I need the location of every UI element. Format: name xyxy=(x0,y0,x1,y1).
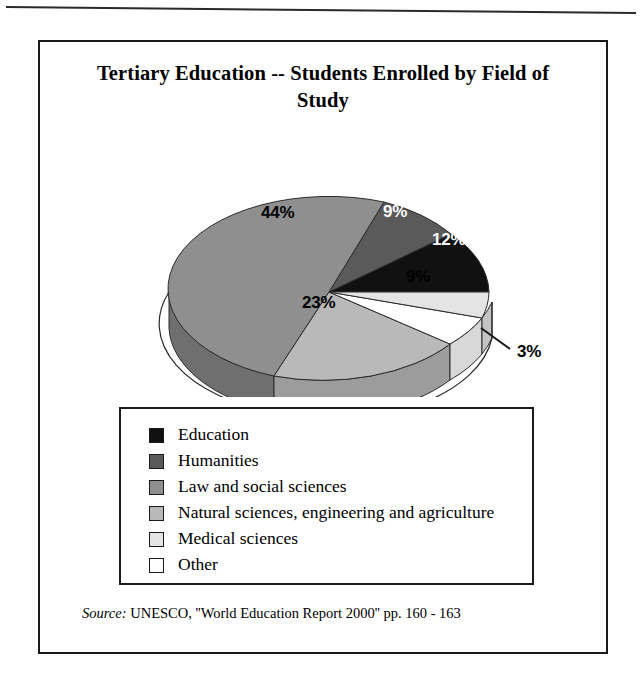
legend-item-law: Law and social sciences xyxy=(149,474,532,500)
legend: Education Humanities Law and social scie… xyxy=(119,407,534,585)
page-top-rule xyxy=(6,6,636,14)
pie-label-humanities: 9% xyxy=(383,202,407,222)
pie-label-education: 12% xyxy=(432,230,465,250)
pie-label-natural: 23% xyxy=(302,293,335,313)
legend-item-humanities: Humanities xyxy=(149,448,532,474)
pie-label-medical: 3% xyxy=(517,342,541,362)
legend-swatch-natural xyxy=(149,506,164,521)
legend-label-medical: Medical sciences xyxy=(178,530,298,548)
legend-swatch-humanities xyxy=(149,454,164,469)
legend-label-natural: Natural sciences, engineering and agricu… xyxy=(178,504,494,522)
legend-label-other: Other xyxy=(178,556,218,574)
legend-swatch-other xyxy=(149,558,164,573)
legend-item-natural: Natural sciences, engineering and agricu… xyxy=(149,500,532,526)
source-text: UNESCO, ''World Education Report 2000'' … xyxy=(130,605,461,621)
legend-item-other: Other xyxy=(149,552,532,578)
pie-chart: 9% 12% 44% 23% 9% 3% xyxy=(40,142,606,397)
legend-item-education: Education xyxy=(149,422,532,448)
legend-swatch-education xyxy=(149,428,164,443)
pie-label-other: 9% xyxy=(406,267,430,287)
legend-item-medical: Medical sciences xyxy=(149,526,532,552)
legend-swatch-law xyxy=(149,480,164,495)
source-note: Source: UNESCO, ''World Education Report… xyxy=(82,605,461,622)
legend-label-law: Law and social sciences xyxy=(178,478,347,496)
legend-swatch-medical xyxy=(149,532,164,547)
legend-label-humanities: Humanities xyxy=(178,452,259,470)
legend-label-education: Education xyxy=(178,426,249,444)
pie-label-law: 44% xyxy=(261,203,294,223)
figure-frame: Tertiary Education -- Students Enrolled … xyxy=(38,40,608,654)
chart-title: Tertiary Education -- Students Enrolled … xyxy=(40,60,606,114)
source-label: Source: xyxy=(82,605,127,621)
